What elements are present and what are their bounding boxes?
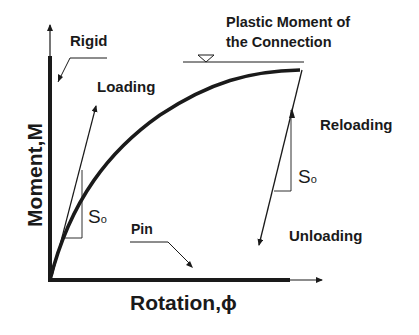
plastic-moment-label-line2: the Connection (226, 32, 350, 52)
initial-stiffness-tangent (52, 106, 96, 276)
pin-pointer (130, 242, 190, 264)
unloading-line (259, 70, 302, 245)
stiffness-symbol: S (298, 166, 311, 187)
pin-label: Pin (131, 222, 153, 236)
reloading-arrowhead-icon (289, 108, 295, 118)
rigid-label: Rigid (70, 33, 108, 48)
stiffness-subscript: o (101, 213, 107, 225)
reloading-label: Reloading (320, 117, 393, 132)
rigid-pointer-arrowhead-icon (58, 74, 63, 82)
initial-stiffness-label-right: So (298, 167, 317, 186)
plastic-moment-label: Plastic Moment of the Connection (226, 12, 350, 52)
x-axis-label: Rotation,ϕ (130, 292, 237, 313)
unloading-label: Unloading (289, 228, 362, 243)
plastic-moment-marker-icon (198, 55, 214, 62)
moment-rotation-diagram (0, 0, 419, 335)
stiffness-symbol: S (88, 206, 101, 227)
loading-label: Loading (97, 79, 155, 94)
initial-stiffness-label-left: So (88, 207, 107, 226)
stiffness-subscript: o (311, 173, 317, 185)
y-axis-label: Moment,M (24, 123, 45, 227)
plastic-moment-label-line1: Plastic Moment of (226, 12, 350, 32)
pin-pointer-arrowhead-icon (186, 261, 193, 268)
